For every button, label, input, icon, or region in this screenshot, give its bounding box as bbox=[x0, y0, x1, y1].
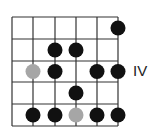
root-note-dot bbox=[26, 64, 41, 79]
note-dot bbox=[111, 21, 126, 36]
note-dot bbox=[48, 64, 63, 79]
root-note-dot bbox=[69, 108, 84, 123]
fretboard-diagram bbox=[0, 0, 153, 136]
note-dot bbox=[48, 108, 63, 123]
note-dot bbox=[69, 43, 84, 58]
note-dot bbox=[90, 64, 105, 79]
note-dot bbox=[90, 108, 105, 123]
note-dot bbox=[69, 86, 84, 101]
note-dot bbox=[111, 108, 126, 123]
position-label: IV bbox=[133, 62, 147, 79]
note-dot bbox=[111, 64, 126, 79]
note-dot bbox=[48, 43, 63, 58]
note-dot bbox=[26, 108, 41, 123]
